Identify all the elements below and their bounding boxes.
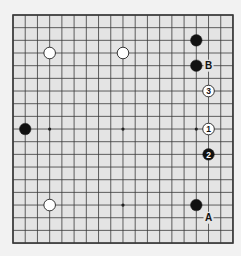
star-point [48, 127, 51, 130]
move-number: 2 [206, 150, 211, 160]
white-stone [44, 199, 56, 211]
star-point [195, 127, 198, 130]
star-point [121, 203, 124, 206]
point-label: A [205, 212, 212, 223]
move-number: 3 [206, 86, 211, 96]
go-board: 312BA [0, 0, 241, 256]
move-number: 1 [206, 124, 211, 134]
black-stone [191, 199, 203, 211]
black-stone [191, 35, 203, 47]
white-stone [44, 47, 56, 59]
black-stone [19, 123, 31, 135]
point-label: B [205, 60, 212, 71]
white-stone [117, 47, 129, 59]
black-stone [191, 60, 203, 72]
star-point [121, 127, 124, 130]
